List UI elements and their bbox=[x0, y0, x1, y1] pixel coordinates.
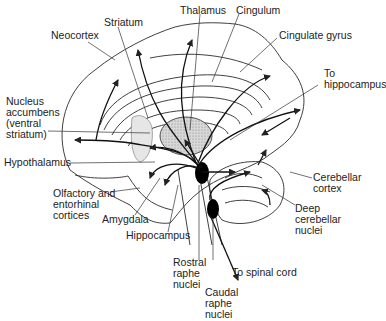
label-cingulum: Cingulum bbox=[236, 5, 280, 16]
label-amygdala: Amygdala bbox=[102, 214, 149, 225]
label-to-hippocampus: To hippocampus bbox=[324, 68, 386, 90]
cerebellum-outline bbox=[210, 162, 284, 224]
label-thalamus: Thalamus bbox=[180, 5, 226, 16]
label-neocortex: Neocortex bbox=[51, 30, 99, 41]
label-hypothalamus: Hypothalamus bbox=[4, 157, 71, 168]
label-striatum: Striatum bbox=[104, 17, 143, 28]
label-rostral-raphe-nuclei: Rostral raphe nuclei bbox=[173, 257, 206, 290]
label-caudal-raphe-nuclei: Caudal raphe nuclei bbox=[205, 287, 238, 320]
caudal-raphe-nucleus bbox=[207, 199, 219, 219]
label-hippocampus: Hippocampus bbox=[126, 230, 190, 241]
label-cerebellar-cortex: Cerebellar cortex bbox=[313, 172, 361, 194]
label-nucleus-accumbens: Nucleus accumbens (ventral striatum) bbox=[6, 96, 60, 140]
striatum-shape bbox=[131, 116, 152, 162]
label-cingulate-gyrus: Cingulate gyrus bbox=[279, 30, 352, 41]
label-to-spinal-cord: To spinal cord bbox=[232, 267, 297, 278]
label-deep-cerebellar-nuclei: Deep cerebellar nuclei bbox=[295, 203, 341, 236]
